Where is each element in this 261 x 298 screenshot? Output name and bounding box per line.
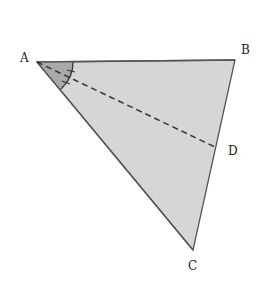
triangle-diagram: A B C D: [0, 0, 261, 298]
label-a: A: [19, 51, 29, 65]
triangle-abc: [37, 60, 235, 250]
label-b: B: [241, 43, 250, 57]
label-c: C: [188, 259, 197, 273]
label-d: D: [228, 144, 238, 158]
